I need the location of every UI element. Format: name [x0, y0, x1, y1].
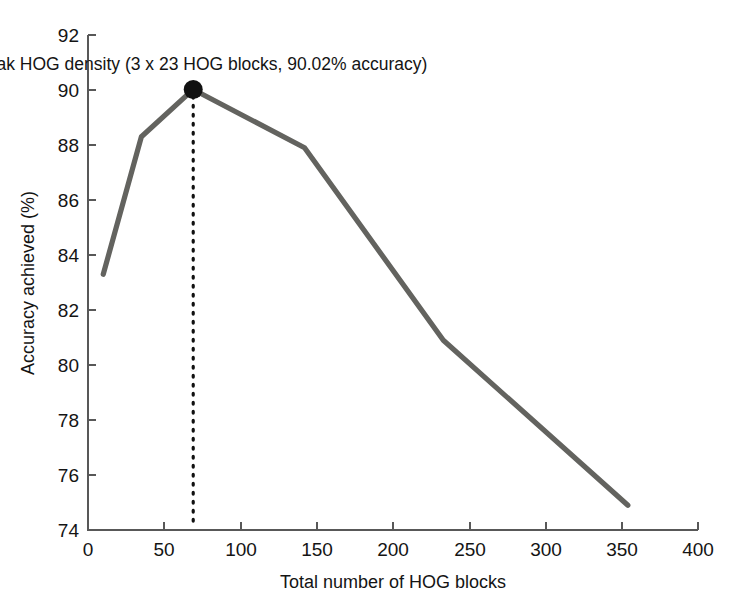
y-tick-label: 82: [58, 300, 79, 321]
x-tick-label: 0: [83, 539, 94, 560]
y-tick-label: 78: [58, 410, 79, 431]
x-tick-label: 400: [682, 539, 714, 560]
y-tick-label: 84: [58, 245, 80, 266]
x-tick-label: 250: [454, 539, 486, 560]
y-tick-label: 90: [58, 80, 79, 101]
x-tick-label: 50: [153, 539, 174, 560]
x-axis-title: Total number of HOG blocks: [280, 572, 506, 592]
x-tick-label: 350: [606, 539, 638, 560]
peak-marker-dot: [184, 80, 203, 99]
x-tick-label: 300: [530, 539, 562, 560]
x-tick-label: 200: [377, 539, 409, 560]
y-axis-title: Accuracy achieved (%): [18, 191, 38, 375]
line-chart: 74 76 78 80 82 84 86 88 90 92 0 50 100 1…: [0, 0, 751, 607]
x-tick-label: 150: [301, 539, 333, 560]
chart-figure: 74 76 78 80 82 84 86 88 90 92 0 50 100 1…: [0, 0, 751, 607]
y-tick-label: 92: [58, 25, 79, 46]
x-tick-label: 100: [225, 539, 257, 560]
y-tick-label: 88: [58, 135, 79, 156]
peak-annotation-label: Peak HOG density (3 x 23 HOG blocks, 90.…: [0, 54, 427, 74]
chart-background: [0, 0, 751, 607]
y-tick-label: 76: [58, 465, 79, 486]
y-tick-label: 80: [58, 355, 79, 376]
y-tick-label: 86: [58, 190, 79, 211]
y-tick-label: 74: [58, 520, 80, 541]
